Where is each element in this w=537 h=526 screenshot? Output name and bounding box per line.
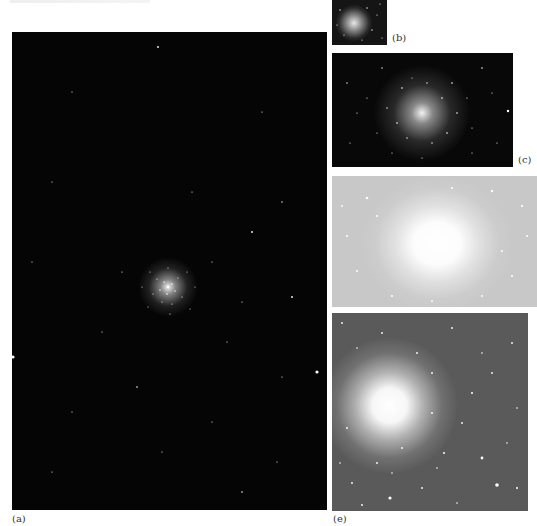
panel-b-label: (b) (392, 33, 406, 43)
star-field-d (332, 176, 537, 307)
panel-b-thumbnail-image (332, 0, 387, 45)
star-field-c (332, 53, 513, 167)
panel-c-cluster-image (332, 53, 513, 167)
star-field-b (332, 0, 387, 45)
panel-a-wide-field-image (12, 32, 327, 510)
panel-a-label: (a) (12, 514, 26, 524)
panel-c-label: (c) (518, 155, 531, 165)
cropped-caption-fragment (10, 0, 150, 3)
star-field-a (12, 32, 327, 510)
star-field-e (332, 313, 528, 511)
panel-d-overexposed-cluster-image (332, 176, 537, 307)
panel-e-label: (e) (333, 514, 347, 524)
panel-e-cluster-core-image (332, 313, 528, 511)
